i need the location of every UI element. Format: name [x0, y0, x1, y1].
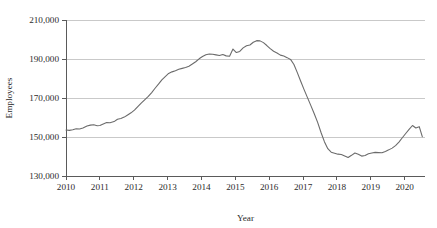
- y-axis-title: Employees: [4, 77, 14, 118]
- x-tick-label: 2016: [260, 182, 279, 192]
- x-tick-label: 2010: [57, 182, 76, 192]
- x-tick-label: 2012: [125, 182, 144, 192]
- x-tick-label: 2019: [362, 182, 381, 192]
- y-tick-label: 210,000: [29, 15, 59, 25]
- y-tick-label: 150,000: [29, 132, 59, 142]
- y-tick-labels: 130,000150,000170,000190,000210,000: [29, 15, 59, 181]
- x-tick-labels: 2010201120122013201420152016201720182019…: [57, 182, 414, 192]
- y-tick-label: 190,000: [29, 54, 59, 64]
- x-tick-label: 2015: [226, 182, 245, 192]
- series-line-employees: [66, 41, 422, 158]
- gridlines: [66, 20, 425, 137]
- data-series: [66, 41, 422, 158]
- x-tick-label: 2014: [192, 182, 211, 192]
- x-tick-label: 2013: [158, 182, 177, 192]
- y-axis: [62, 20, 66, 176]
- x-axis: [66, 176, 425, 180]
- x-axis-title: Year: [237, 213, 254, 223]
- y-tick-label: 170,000: [29, 93, 59, 103]
- x-tick-label: 2011: [91, 182, 109, 192]
- y-tick-label: 130,000: [29, 171, 59, 181]
- x-tick-label: 2020: [395, 182, 414, 192]
- x-tick-label: 2018: [328, 182, 347, 192]
- x-tick-label: 2017: [294, 182, 313, 192]
- employment-line-chart: 130,000150,000170,000190,000210,000 2010…: [0, 0, 437, 228]
- chart-canvas: 130,000150,000170,000190,000210,000 2010…: [0, 0, 437, 228]
